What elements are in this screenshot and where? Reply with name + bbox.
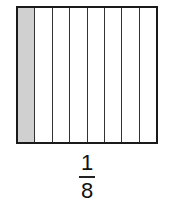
fraction-rectangle (16, 6, 158, 144)
unshaded-part (87, 8, 104, 142)
fraction-numerator: 1 (72, 152, 102, 174)
unshaded-part (69, 8, 86, 142)
unshaded-part (52, 8, 69, 142)
fraction-label: 1 8 (72, 152, 102, 202)
unshaded-part (121, 8, 138, 142)
shaded-part (18, 8, 34, 142)
unshaded-part (34, 8, 51, 142)
unshaded-part (104, 8, 121, 142)
unshaded-part (139, 8, 156, 142)
fraction-denominator: 8 (72, 180, 102, 202)
